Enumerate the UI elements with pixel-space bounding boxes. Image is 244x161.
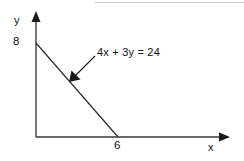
x-intercept-tick-label: 6 — [114, 140, 120, 152]
equation-annotation-label: 4x + 3y = 24 — [97, 47, 160, 58]
linear-equation-graph: y x 8 6 4x + 3y = 24 — [0, 0, 244, 161]
y-axis-arrowhead — [32, 11, 41, 22]
y-axis-label: y — [14, 15, 20, 26]
annotation-pointer-line — [73, 56, 95, 78]
x-axis-arrowhead — [219, 133, 230, 142]
graph-canvas — [0, 0, 244, 161]
x-axis-label: x — [208, 142, 214, 153]
y-intercept-tick-label: 8 — [13, 36, 19, 48]
